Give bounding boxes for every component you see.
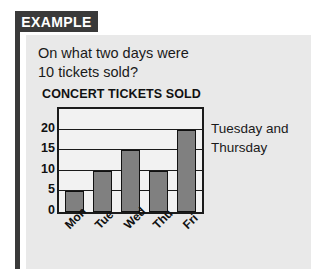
bar-slot-mon bbox=[61, 109, 89, 212]
y-axis-tick-10: 10 bbox=[41, 163, 55, 176]
question-line-1: On what two days were bbox=[38, 44, 288, 63]
question-text: On what two days were 10 tickets sold? bbox=[38, 44, 288, 82]
chart-title: CONCERT TICKETS SOLD bbox=[42, 87, 201, 101]
bar-slot-thu bbox=[144, 109, 172, 212]
bar-slot-fri bbox=[172, 109, 200, 212]
question-line-2: 10 tickets sold? bbox=[38, 63, 288, 82]
plot-frame bbox=[57, 107, 204, 214]
bar-slot-wed bbox=[117, 109, 145, 212]
answer-line-2: Thursday bbox=[211, 138, 311, 157]
bar-series bbox=[59, 109, 202, 212]
answer-line-1: Tuesday and bbox=[211, 119, 311, 138]
y-axis-tick-5: 5 bbox=[48, 183, 55, 196]
example-banner: EXAMPLE bbox=[15, 11, 98, 32]
bar-tue bbox=[93, 171, 112, 212]
bar-slot-tue bbox=[89, 109, 117, 212]
answer-text: Tuesday and Thursday bbox=[211, 119, 311, 157]
y-axis-tick-0: 0 bbox=[48, 204, 55, 217]
bar-fri bbox=[177, 130, 196, 212]
x-axis-tick-labels: MonTueWedThuFri bbox=[57, 214, 204, 259]
left-accent-rule bbox=[15, 11, 20, 269]
x-axis-tick-fri: Fri bbox=[180, 211, 201, 232]
example-banner-label: EXAMPLE bbox=[21, 15, 91, 29]
y-axis-tick-20: 20 bbox=[41, 121, 55, 134]
y-axis-tick-labels: 05101520 bbox=[28, 107, 55, 214]
bar-chart: 05101520 MonTueWedThuFri bbox=[28, 107, 208, 259]
bar-wed bbox=[121, 150, 140, 212]
y-axis-tick-15: 15 bbox=[41, 142, 55, 155]
content-panel: On what two days were 10 tickets sold? C… bbox=[26, 35, 311, 269]
